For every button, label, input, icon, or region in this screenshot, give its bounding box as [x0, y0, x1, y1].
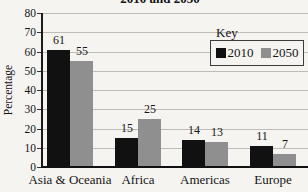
y-tick-label-50: 50	[10, 65, 36, 77]
legend-title: Key	[216, 26, 238, 40]
y-tick-label-40: 40	[10, 84, 36, 96]
value-label-2050-africa: 25	[135, 103, 165, 116]
legend-label-2010: 2010	[228, 45, 254, 61]
legend-swatch-2050	[261, 48, 271, 58]
bar-2050-asia-oceania	[70, 61, 93, 167]
gridline-70	[42, 32, 308, 33]
bar-2010-africa	[115, 138, 138, 167]
value-label-2050-asia-oceania: 55	[67, 45, 97, 58]
gridline-80	[42, 13, 308, 14]
y-tick-label-60: 60	[10, 46, 36, 58]
legend-item-2050: 2050	[261, 45, 299, 61]
y-tick-label-70: 70	[10, 26, 36, 38]
plot-area: 010203040506070806155Asia & Oceania1525A…	[0, 0, 308, 192]
y-tick-label-80: 80	[10, 7, 36, 19]
bar-chart-figure: 2010 and 2050 Percentage 010203040506070…	[0, 0, 308, 192]
legend-swatch-2010	[216, 48, 226, 58]
y-tick-label-20: 20	[10, 123, 36, 135]
y-axis-line	[41, 13, 43, 168]
legend-box: 2010 2050	[210, 40, 304, 66]
value-label-2050-europe: 7	[270, 138, 300, 151]
legend-item-2010: 2010	[216, 45, 254, 61]
bar-2050-africa	[138, 119, 161, 167]
y-tick-label-10: 10	[10, 142, 36, 154]
y-tick-label-30: 30	[10, 103, 36, 115]
legend-label-2050: 2050	[273, 45, 299, 61]
bar-2050-americas	[205, 142, 228, 167]
x-category-label-europe: Europe	[213, 173, 308, 187]
x-axis-line	[41, 166, 308, 168]
bar-2010-asia-oceania	[47, 50, 70, 167]
value-label-2050-americas: 13	[202, 126, 232, 139]
bar-2010-americas	[182, 140, 205, 167]
